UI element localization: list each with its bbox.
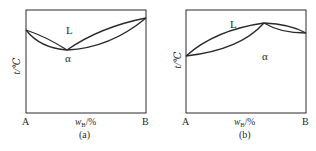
diagram-b-B-label: B <box>302 116 309 127</box>
diagram-a-B-label: B <box>142 116 149 127</box>
phase-diagrams: L α t/℃ A B wB/% (a) L α t/℃ A B wB/% (b… <box>0 0 316 151</box>
diagram-a-frame <box>26 10 146 113</box>
diagram-a-x-axis-label: wB/% <box>75 117 96 128</box>
diagram-a-A-label: A <box>22 116 30 127</box>
diagram-a-solidus-right <box>67 18 146 50</box>
diagram-a-liquidus-left <box>26 30 67 50</box>
diagram-b-x-axis-label: wB/% <box>234 117 255 128</box>
diagram-a-liquidus-right <box>67 18 146 50</box>
diagram-a: L α t/℃ A B wB/% (a) <box>11 10 149 141</box>
diagram-b-liquidus-left <box>186 23 264 56</box>
diagram-b-A-label: A <box>182 116 190 127</box>
diagram-b-solidus-left <box>186 23 264 56</box>
diagram-b: L α t/℃ A B wB/% (b) <box>172 10 309 141</box>
diagram-a-caption: (a) <box>79 129 90 141</box>
diagram-a-alpha-label: α <box>65 52 71 64</box>
diagram-a-y-axis-label: t/℃ <box>11 58 22 75</box>
diagram-a-solidus-left <box>26 30 67 50</box>
diagram-b-liquid-label: L <box>230 18 237 30</box>
diagram-b-frame <box>186 10 306 113</box>
diagram-a-liquid-label: L <box>66 24 73 36</box>
diagram-b-y-axis-label: t/℃ <box>172 52 183 69</box>
diagram-b-solidus-right <box>264 23 306 33</box>
diagram-b-alpha-label: α <box>262 50 268 62</box>
diagram-b-caption: (b) <box>239 129 251 141</box>
